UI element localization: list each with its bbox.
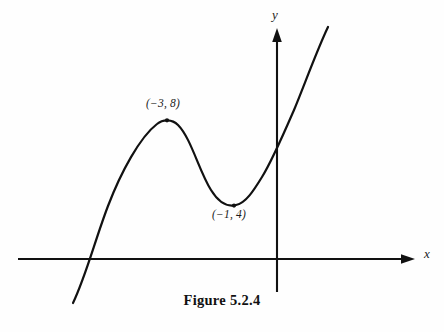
function-curve [73,27,328,303]
y-axis-label: y [272,8,278,21]
x-axis-label: x [424,247,430,260]
plot-area [0,0,444,332]
figure-container: (−3, 8) (−1, 4) y x Figure 5.2.4 [0,0,444,332]
local-maximum-point-marker [165,118,169,122]
local-maximum-point-label: (−3, 8) [146,98,180,110]
y-axis-arrowhead [272,28,282,42]
x-axis-arrowhead [401,254,415,264]
local-minimum-point-label: (−1, 4) [212,209,246,221]
figure-caption: Figure 5.2.4 [0,292,444,309]
